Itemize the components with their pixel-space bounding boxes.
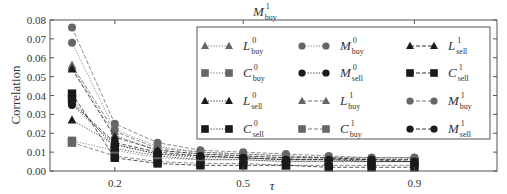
chart-title-text: M1buy <box>252 2 277 22</box>
y-tick-label: 0.05 <box>27 71 47 83</box>
data-point-square-marker <box>325 163 333 171</box>
x-tick-label: 0.2 <box>108 177 122 189</box>
x-tick-label: 0.9 <box>408 177 422 189</box>
y-tick-label: 0.01 <box>27 146 46 158</box>
data-point-circle-marker <box>325 156 333 164</box>
legend-square-marker <box>201 125 209 133</box>
legend-square-marker <box>225 69 233 77</box>
data-point-square-marker <box>68 138 76 146</box>
legend-circle-marker <box>430 97 437 104</box>
legend-circle-marker <box>322 69 329 76</box>
y-axis-label: Correlation <box>8 65 23 125</box>
data-point-triangle-marker <box>68 115 77 123</box>
data-point-circle-marker <box>154 139 162 147</box>
legend-square-marker <box>430 69 438 77</box>
data-point-circle-marker <box>68 39 76 47</box>
data-point-circle-marker <box>282 156 290 164</box>
x-axis-label: τ <box>270 178 276 193</box>
data-point-square-marker <box>367 163 375 171</box>
y-tick-label: 0.00 <box>27 165 47 177</box>
legend-square-marker <box>225 125 233 133</box>
data-point-square-marker <box>196 161 204 169</box>
legend-square-marker <box>406 69 414 77</box>
legend-square-marker <box>201 69 209 77</box>
data-point-circle-marker <box>196 152 204 160</box>
x-tick-label: 0.5 <box>236 177 250 189</box>
y-tick-label: 0.03 <box>27 108 47 120</box>
data-point-circle-marker <box>410 158 418 166</box>
legend-square-marker <box>322 125 330 133</box>
y-tick-label: 0.08 <box>27 14 47 26</box>
legend-square-marker <box>298 125 306 133</box>
legend-circle-marker <box>406 97 413 104</box>
data-point-circle-marker <box>368 156 376 164</box>
data-point-square-marker <box>111 154 119 162</box>
data-point-circle-marker <box>111 139 119 147</box>
legend-circle-marker <box>322 42 329 49</box>
legend: L0buyM0buyL1sellC0buyM0sellC1sellL0sellL… <box>197 27 490 139</box>
legend-circle-marker <box>298 42 305 49</box>
legend-circle-marker <box>406 125 413 132</box>
legend-circle-marker <box>298 69 305 76</box>
chart-title: M1buy <box>252 2 277 22</box>
y-tick-label: 0.02 <box>27 127 46 139</box>
data-point-circle-marker <box>68 24 76 32</box>
data-point-circle-marker <box>154 148 162 156</box>
legend-circle-marker <box>430 125 437 132</box>
data-point-circle-marker <box>68 99 76 107</box>
y-tick-label: 0.06 <box>27 52 47 64</box>
data-point-circle-marker <box>239 154 247 162</box>
data-point-square-marker <box>68 89 76 97</box>
correlation-chart: M1buy 0.000.010.020.030.040.050.060.070.… <box>0 0 507 194</box>
data-point-square-marker <box>153 159 161 167</box>
y-tick-label: 0.07 <box>27 33 47 45</box>
y-tick-label: 0.04 <box>27 90 47 102</box>
data-point-circle-marker <box>111 120 119 128</box>
